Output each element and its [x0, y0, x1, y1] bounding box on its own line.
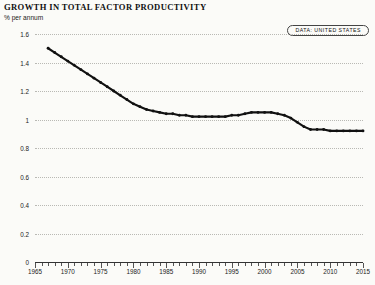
data-point	[158, 111, 161, 114]
data-point	[303, 125, 306, 128]
x-tick-label-2005: 2005	[290, 268, 304, 275]
x-tick-1974	[94, 263, 95, 266]
x-tick-1987	[179, 263, 180, 266]
x-tick-1967	[48, 263, 49, 266]
chart-subtitle: % per annum	[4, 14, 43, 21]
x-tick-1982	[147, 263, 148, 266]
data-point	[362, 129, 365, 132]
data-point	[348, 129, 351, 132]
data-point	[316, 128, 319, 131]
x-tick-1983	[153, 263, 154, 266]
data-point	[283, 114, 286, 117]
x-tick-1991	[206, 263, 207, 266]
data-point	[289, 117, 292, 120]
y-tick-label-1.6: 1.6	[20, 31, 29, 38]
x-tick-1985	[166, 263, 167, 268]
data-point	[171, 112, 174, 115]
x-tick-label-2000: 2000	[258, 268, 272, 275]
x-tick-label-2010: 2010	[323, 268, 337, 275]
data-point	[237, 114, 240, 117]
data-point	[125, 98, 128, 101]
data-point	[257, 111, 260, 114]
x-tick-2000	[265, 263, 266, 268]
x-tick-2009	[324, 263, 325, 266]
x-tick-label-1985: 1985	[159, 268, 173, 275]
data-point	[342, 129, 345, 132]
x-tick-1980	[133, 263, 134, 268]
x-tick-1968	[55, 263, 56, 266]
data-point	[79, 68, 82, 71]
data-point	[211, 115, 214, 118]
data-point	[250, 111, 253, 114]
x-tick-2011	[337, 263, 338, 266]
data-point	[309, 128, 312, 131]
x-tick-1994	[225, 263, 226, 266]
data-point	[270, 111, 273, 114]
x-tick-label-1965: 1965	[28, 268, 42, 275]
data-point	[119, 94, 122, 97]
data-point	[165, 112, 168, 115]
x-tick-1999	[258, 263, 259, 266]
x-tick-2006	[304, 263, 305, 266]
y-tick-label-1.4: 1.4	[20, 59, 29, 66]
x-tick-1973	[87, 263, 88, 266]
data-point	[152, 110, 155, 113]
data-point	[198, 115, 201, 118]
x-tick-label-1975: 1975	[94, 268, 108, 275]
x-tick-1998	[251, 263, 252, 266]
data-point	[47, 47, 50, 50]
data-point	[276, 112, 279, 115]
x-tick-1993	[219, 263, 220, 266]
x-tick-2012	[343, 263, 344, 266]
x-tick-1978	[120, 263, 121, 266]
data-point	[296, 121, 299, 124]
x-axis-labels: 1965197019751980198519901995200020052010…	[0, 268, 375, 280]
data-point	[178, 114, 181, 117]
x-tick-1997	[245, 263, 246, 266]
x-tick-2013	[350, 263, 351, 266]
data-point	[112, 90, 115, 93]
x-tick-2004	[291, 263, 292, 266]
data-point	[335, 129, 338, 132]
page-title: GROWTH IN TOTAL FACTOR PRODUCTIVITY	[4, 2, 206, 12]
x-tick-1972	[81, 263, 82, 266]
x-tick-1975	[101, 263, 102, 268]
x-tick-1971	[74, 263, 75, 266]
data-point	[86, 72, 89, 75]
data-point	[139, 105, 142, 108]
data-point	[243, 112, 246, 115]
y-tick-label-1: 1	[25, 116, 29, 123]
x-tick-1995	[232, 263, 233, 268]
x-tick-2003	[284, 263, 285, 266]
data-point	[230, 114, 233, 117]
data-point	[263, 111, 266, 114]
x-tick-1976	[107, 263, 108, 266]
data-point	[204, 115, 207, 118]
data-point	[217, 115, 220, 118]
y-tick-label-0.4: 0.4	[20, 202, 29, 209]
data-point	[66, 60, 69, 63]
x-tick-2015	[363, 263, 364, 268]
x-tick-2001	[271, 263, 272, 266]
x-tick-1986	[173, 263, 174, 266]
x-tick-label-1970: 1970	[61, 268, 75, 275]
data-point	[145, 108, 148, 111]
y-axis-labels: 00.20.40.60.811.21.41.6	[0, 34, 33, 262]
x-tick-1965	[35, 263, 36, 268]
x-tick-1969	[61, 263, 62, 266]
data-point	[322, 128, 325, 131]
x-tick-1990	[199, 263, 200, 268]
x-tick-1970	[68, 263, 69, 268]
plot-area	[35, 34, 363, 262]
data-point	[93, 77, 96, 80]
x-axis-line	[35, 262, 363, 263]
x-tick-2014	[356, 263, 357, 266]
x-tick-1996	[238, 263, 239, 266]
x-tick-1989	[192, 263, 193, 266]
data-point	[191, 115, 194, 118]
x-tick-2010	[330, 263, 331, 268]
series-line-united-states	[35, 34, 363, 262]
data-point	[329, 129, 332, 132]
x-tick-label-2015: 2015	[356, 268, 370, 275]
x-tick-2002	[278, 263, 279, 266]
